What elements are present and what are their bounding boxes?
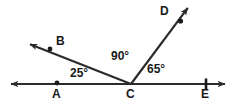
angle-label-BCD: 90° xyxy=(111,50,129,62)
point-label-E: E xyxy=(201,88,209,100)
geometry-diagram: A B C D E 25° 90° 65° xyxy=(0,0,235,105)
angle-label-DCE: 65° xyxy=(147,63,165,75)
point-label-B: B xyxy=(56,35,65,47)
point-marker-A xyxy=(55,81,60,86)
angle-label-ACB: 25° xyxy=(70,67,88,79)
point-label-C: C xyxy=(126,88,135,100)
point-label-D: D xyxy=(160,5,169,17)
point-marker-B xyxy=(48,47,53,52)
point-marker-D xyxy=(178,18,183,23)
point-label-A: A xyxy=(52,88,61,100)
